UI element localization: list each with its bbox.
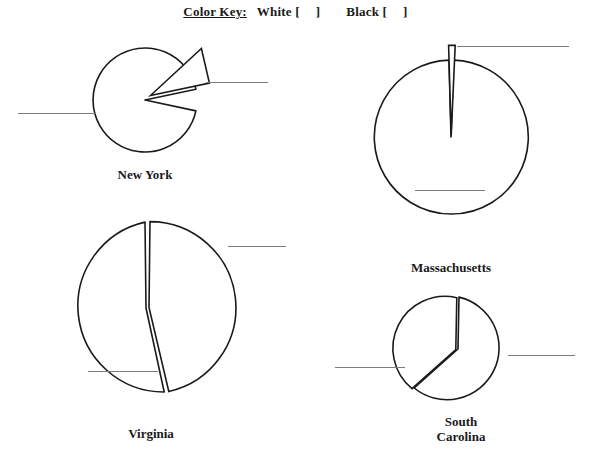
pie-svg-massachusetts: [340, 20, 591, 270]
leader-line-virginia-white: [88, 371, 158, 372]
leader-line-new-york-white: [18, 113, 95, 114]
pie-svg-virginia: [40, 205, 310, 452]
chart-label-south-carolina: South Carolina: [396, 415, 526, 444]
chart-label-massachusetts: Massachusetts: [376, 261, 526, 276]
chart-label-new-york: New York: [85, 168, 205, 183]
color-key-entry-black-close-bracket: ]: [403, 4, 408, 19]
leader-line-virginia-black: [228, 246, 286, 247]
leader-line-south-carolina-white: [508, 355, 575, 356]
color-key-entry-black-open-bracket: [: [383, 4, 388, 19]
pie-slice-white-new-york[interactable]: [93, 48, 196, 152]
pie-slice-black-virginia-exploded[interactable]: [149, 222, 236, 392]
chart-label-virginia: Virginia: [91, 427, 211, 442]
pie-chart-new-york: New York: [0, 0, 300, 200]
pie-chart-worksheet: Color Key:White []Black [] New York Mass…: [0, 0, 591, 452]
leader-line-massachusetts-white: [415, 190, 485, 191]
leader-line-massachusetts-black: [457, 46, 569, 47]
color-key-entry-black-label: Black: [346, 4, 379, 19]
pie-chart-south-carolina: South Carolina: [330, 285, 591, 452]
pie-chart-massachusetts: Massachusetts: [340, 20, 591, 270]
leader-line-south-carolina-black: [335, 367, 405, 368]
color-key-entry-white-close-bracket: ]: [316, 4, 321, 19]
pie-chart-virginia: Virginia: [40, 205, 310, 452]
leader-line-new-york-black: [206, 82, 268, 83]
